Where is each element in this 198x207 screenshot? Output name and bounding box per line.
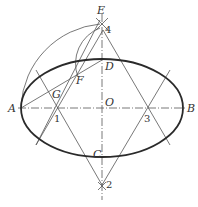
label-E: E <box>96 4 105 17</box>
label-O: O <box>105 96 114 109</box>
label-B: B <box>186 102 195 115</box>
label-4: 4 <box>105 24 111 35</box>
label-D: D <box>104 60 114 73</box>
label-G: G <box>52 88 61 101</box>
label-1: 1 <box>54 113 60 124</box>
arc-D-to-F <box>76 28 100 77</box>
label-3: 3 <box>144 113 150 124</box>
ellipse-construction-diagram: E 4 D F G A O B 1 3 C 2 <box>0 0 198 207</box>
label-2: 2 <box>106 179 112 190</box>
label-F: F <box>75 74 84 87</box>
label-C: C <box>93 148 102 161</box>
label-A: A <box>7 102 16 115</box>
